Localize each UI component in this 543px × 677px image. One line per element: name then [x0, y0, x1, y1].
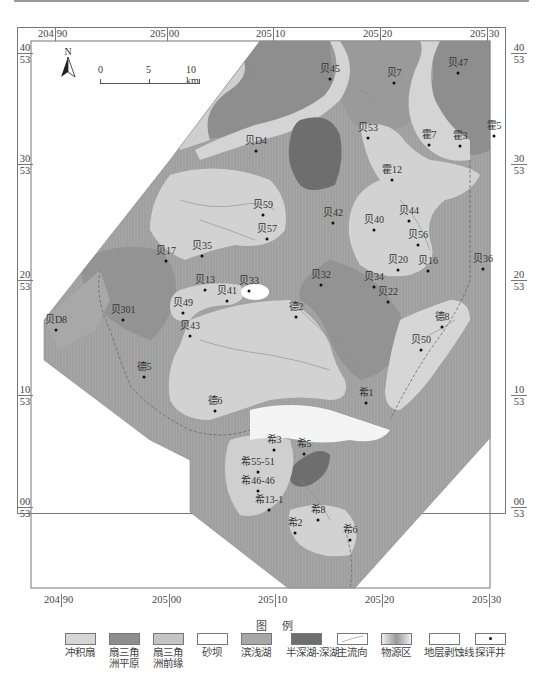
well-marker-icon	[295, 316, 298, 319]
well-marker-icon	[320, 284, 323, 287]
shore-shallow-lake-swatch	[241, 633, 272, 645]
well-marker-icon	[204, 289, 207, 292]
well-marker-icon	[332, 222, 335, 225]
well-label: 霍3	[453, 127, 468, 142]
well-label: 贝49	[173, 294, 193, 309]
well-marker-icon	[459, 145, 462, 148]
well-label: 霍7	[422, 126, 437, 141]
well-label: 希6	[343, 521, 358, 536]
well-label: 希46-46	[241, 472, 274, 487]
well-marker-icon	[255, 150, 258, 153]
well-label: 贝41	[217, 282, 237, 297]
legend-item-alluvial-fan: 冲积扇	[60, 633, 100, 658]
well-marker-icon	[294, 532, 297, 535]
well-label: 贝13	[195, 271, 215, 286]
well-label: 贝36	[473, 250, 493, 265]
well-marker-icon	[268, 509, 271, 512]
well-label: 希1	[359, 384, 374, 399]
well-label: 贝53	[358, 119, 378, 134]
scale-bar-line	[100, 79, 200, 84]
well-label: 贝32	[311, 266, 331, 281]
well-marker-icon	[165, 260, 168, 263]
facies-map-graphic	[0, 0, 543, 677]
well-label: 贝56	[408, 226, 428, 241]
well-label: 贝33	[239, 272, 259, 287]
alluvial-fan-swatch	[65, 633, 96, 645]
well-marker-icon	[482, 268, 485, 271]
well-label: 希55-51	[241, 453, 274, 468]
well-marker-icon	[262, 214, 265, 217]
legend-item-shore-shallow-lake: 滨浅湖	[236, 633, 276, 658]
legend-item-fan-delta-front: 扇三角 洲前缘	[148, 633, 188, 669]
well-label: 贝D4	[245, 132, 267, 147]
well-marker-icon	[303, 453, 306, 456]
flow-line-icon	[338, 634, 367, 644]
map-canvas	[0, 0, 543, 677]
well-marker-icon	[329, 78, 332, 81]
well-marker-icon	[397, 269, 400, 272]
well-label: 希2	[288, 514, 303, 529]
well-label: 霍5	[487, 117, 502, 132]
well-marker-icon	[393, 82, 396, 85]
well-marker-icon	[373, 229, 376, 232]
fan-delta-front-swatch	[153, 633, 184, 645]
well-label: 贝34	[364, 268, 384, 283]
well-marker-icon	[214, 410, 217, 413]
well-marker-icon	[226, 300, 229, 303]
well-label: 希3	[267, 431, 282, 446]
main-flow-swatch	[337, 633, 368, 645]
well-marker-icon	[493, 135, 496, 138]
well-label: 德5	[137, 358, 152, 373]
well-marker-icon	[367, 137, 370, 140]
well-marker-icon	[201, 255, 204, 258]
north-arrow: N	[58, 46, 78, 86]
fan-delta-plain-swatch	[109, 633, 140, 645]
well-marker-icon	[266, 238, 269, 241]
well-label: 德6	[208, 392, 223, 407]
scale-label-0: 0	[98, 64, 103, 75]
well-marker-icon	[408, 220, 411, 223]
well-label: 德2	[289, 298, 304, 313]
well-marker-icon	[189, 335, 192, 338]
well-marker-icon	[365, 402, 368, 405]
legend: 冲积扇 扇三角 洲平原 扇三角 洲前缘 砂坝 滨浅湖 半深湖-深湖 主流向 物源…	[60, 633, 530, 673]
well-marker-icon	[441, 326, 444, 329]
well-label: 贝17	[156, 242, 176, 257]
well-marker-icon	[420, 349, 423, 352]
well-marker-icon	[317, 519, 320, 522]
source-area-swatch	[381, 633, 412, 645]
well-label: 贝59	[253, 196, 273, 211]
well-label: 贝44	[399, 202, 419, 217]
semi-deep-deep-lake-swatch	[291, 633, 322, 645]
well-label: 贝43	[180, 317, 200, 332]
well-label: 贝47	[448, 54, 468, 69]
legend-item-sand-bar: 砂坝	[192, 633, 232, 658]
scale-label-5: 5	[146, 64, 151, 75]
well-marker-icon	[457, 72, 460, 75]
north-arrow-icon	[58, 57, 78, 79]
well-marker-icon	[55, 329, 58, 332]
well-label: 贝57	[257, 220, 277, 235]
well-marker-icon	[373, 286, 376, 289]
well-marker-icon	[349, 539, 352, 542]
well-marker-icon	[391, 179, 394, 182]
north-label: N	[58, 46, 78, 57]
legend-item-source-area: 物源区	[376, 633, 416, 658]
well-label: 贝20	[388, 251, 408, 266]
well-marker-icon	[248, 290, 251, 293]
well-marker-icon	[428, 144, 431, 147]
well-label: 贝7	[387, 64, 402, 79]
well-marker-icon	[417, 244, 420, 247]
sand-bar-swatch	[197, 633, 228, 645]
scale-bar-midtick	[149, 79, 150, 83]
well-label: 贝301	[111, 301, 136, 316]
well-marker-icon	[182, 312, 185, 315]
well-marker-icon	[143, 376, 146, 379]
well-marker-icon	[427, 270, 430, 273]
well-label: 贝42	[323, 204, 343, 219]
well-label: 贝16	[418, 252, 438, 267]
legend-item-erosion-line: 地层剥蚀线	[424, 633, 464, 658]
legend-item-exploration-well: 探评井	[470, 633, 510, 658]
well-label: 希13-1	[255, 491, 283, 506]
well-label: 贝D8	[45, 311, 67, 326]
